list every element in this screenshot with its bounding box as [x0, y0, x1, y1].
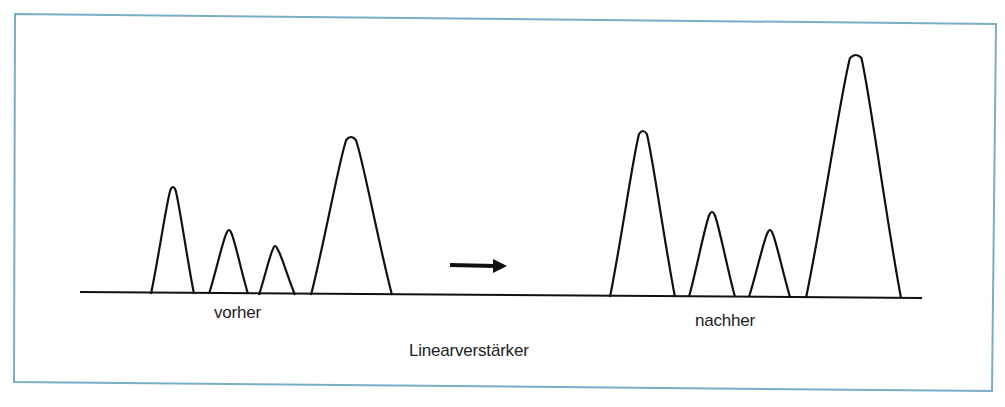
peaks-after-group	[610, 55, 901, 298]
before-peak-1	[151, 187, 194, 294]
right-arrow-icon	[450, 259, 507, 273]
after-peak-4	[806, 55, 901, 298]
after-peak-1	[610, 131, 675, 297]
figure-frame	[14, 14, 996, 391]
baseline	[80, 292, 922, 298]
diagram-title: Linearverstärker	[409, 341, 529, 361]
peaks-before-group	[151, 137, 392, 295]
cropped-caption	[14, 401, 434, 407]
label-before: vorher	[214, 303, 261, 323]
after-peak-3	[749, 230, 790, 297]
before-peak-4	[311, 137, 392, 295]
figure: vorher nachher Linearverstärker	[0, 0, 1005, 407]
before-peak-3	[259, 246, 295, 295]
after-peak-2	[689, 212, 735, 297]
before-peak-2	[209, 230, 248, 294]
label-after: nachher	[695, 311, 755, 331]
